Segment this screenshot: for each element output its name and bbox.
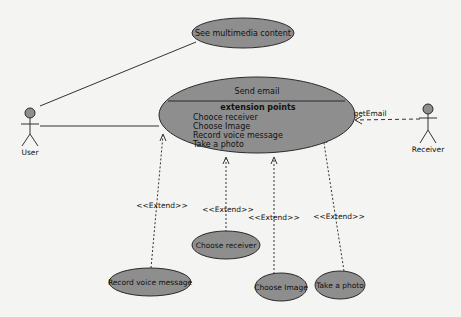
extend-label-take-photo: <<Extend>> [313,212,364,221]
use-case-choose-image[interactable]: Choose Image [254,273,308,301]
extension-point: Take a photo [192,140,244,149]
extend-label-choose-image: <<Extend>> [248,213,299,222]
extension-point: Record voice message [193,131,283,140]
use-case-label: Record voice message [108,278,193,287]
actor-label: Receiver [412,145,445,154]
actor-head-icon [25,108,35,118]
use-case-record-voice-message[interactable]: Record voice message [108,268,193,296]
use-case-send-email[interactable]: Send email extension points Chooce recei… [159,77,355,153]
extension-point: Chooce receiver [193,113,259,122]
get-email-dependency [356,119,420,120]
use-case-label: See multimedia content [195,29,291,38]
extension-point: Choose Image [193,122,250,131]
extend-take-photo-line [323,137,344,271]
extend-label-record-voice: <<Extend>> [136,201,187,210]
use-case-label: Choose Image [254,283,308,292]
use-case-label: Send email [235,87,280,96]
extend-label-choose-receiver: <<Extend>> [202,205,253,214]
use-case-take-a-photo[interactable]: Take a photo [315,271,365,299]
use-case-see-multimedia-content[interactable]: See multimedia content [192,18,294,48]
actor-receiver[interactable]: Receiver [412,104,445,154]
extension-points-title: extension points [220,103,295,112]
use-case-label: Choose receiver [196,241,257,250]
actor-head-icon [423,104,433,114]
use-case-choose-receiver[interactable]: Choose receiver [192,231,260,259]
actor-label: User [21,148,39,157]
use-case-label: Take a photo [315,281,364,290]
actor-user[interactable]: User [21,108,39,157]
get-email-label: getEmail [353,109,386,118]
use-case-diagram: See multimedia content Send email extens… [0,0,461,317]
